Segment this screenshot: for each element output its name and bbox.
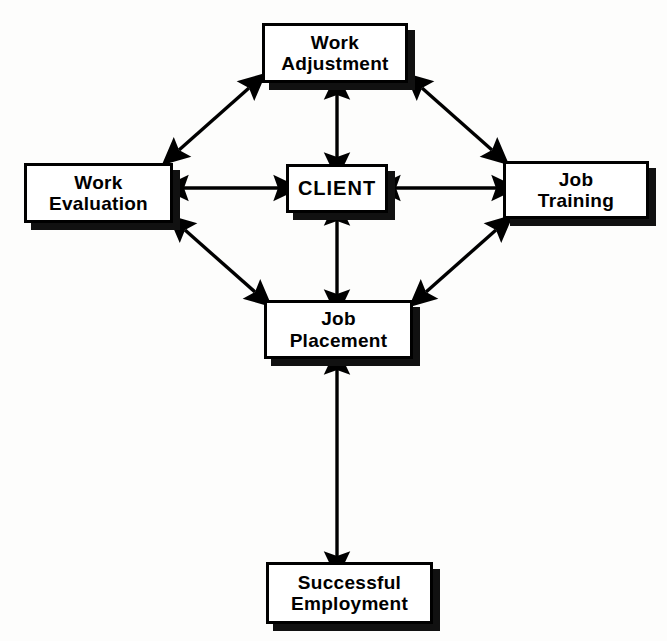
node-job-training[interactable]: Job Training bbox=[503, 161, 649, 219]
node-client-label: CLIENT bbox=[298, 177, 376, 199]
node-successful-employment-label: Successful Employment bbox=[291, 572, 408, 615]
diagram-canvas: Work Adjustment Work Evaluation CLIENT J… bbox=[0, 0, 667, 641]
node-client[interactable]: CLIENT bbox=[286, 164, 388, 213]
connector-work-evaluation-job-placement bbox=[185, 230, 255, 292]
node-work-evaluation-label: Work Evaluation bbox=[49, 172, 148, 215]
node-job-placement-label: Job Placement bbox=[290, 308, 388, 351]
connector-job-placement-job-training bbox=[426, 230, 496, 292]
node-work-adjustment-label: Work Adjustment bbox=[281, 32, 389, 75]
node-work-adjustment[interactable]: Work Adjustment bbox=[262, 23, 408, 83]
connector-work-evaluation-work-adjustment bbox=[179, 88, 249, 150]
node-job-placement[interactable]: Job Placement bbox=[264, 300, 413, 359]
node-successful-employment[interactable]: Successful Employment bbox=[266, 562, 433, 624]
node-job-training-label: Job Training bbox=[538, 169, 614, 212]
node-work-evaluation[interactable]: Work Evaluation bbox=[24, 163, 173, 223]
connector-work-adjustment-job-training bbox=[422, 88, 492, 150]
